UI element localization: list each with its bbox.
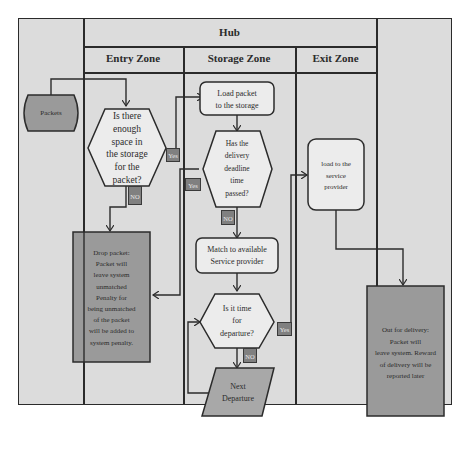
- drop-packet-text: Drop packet: Packet will leave system un…: [73, 248, 150, 349]
- match-provider-text: Match to available Service provider: [196, 244, 278, 267]
- no-tag-departure: NO: [243, 348, 257, 363]
- no-tag-space: NO: [128, 186, 142, 205]
- load-storage-text: Load packet to the storage: [200, 88, 274, 111]
- packets-label: Packets: [24, 108, 78, 118]
- deadline-check-text: Has the delivery deadline time passed?: [208, 138, 266, 200]
- next-departure-text: Next Departure: [208, 381, 268, 405]
- space-check-text: Is there enough space in the storage for…: [95, 110, 159, 187]
- load-provider-text: load to the service provider: [308, 159, 364, 194]
- yes-tag-deadline: Yes: [185, 178, 201, 191]
- out-for-delivery-text: Out for delivery: Packet will leave syst…: [367, 325, 444, 383]
- no-tag-deadline: NO: [221, 210, 235, 225]
- yes-tag-departure: Yes: [277, 322, 292, 336]
- yes-tag-space: Yes: [166, 148, 180, 162]
- departure-check-text: Is it time for departure?: [207, 303, 267, 340]
